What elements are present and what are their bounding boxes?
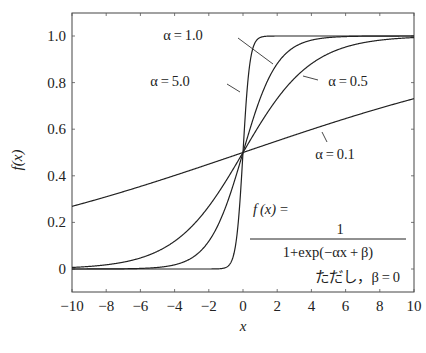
x-axis-label: x (239, 318, 247, 334)
formula-denominator: 1+exp(−αx + β) (283, 244, 374, 261)
x-tick-label: −2 (201, 298, 217, 314)
x-tick-label: −8 (98, 298, 114, 314)
x-tick-label: 0 (239, 298, 247, 314)
formula-lhs: f (x) = (253, 201, 289, 218)
formula-note: ただし，β = 0 (315, 269, 400, 285)
y-tick-label: 0.4 (47, 168, 66, 184)
x-tick-label: −4 (167, 298, 183, 314)
y-axis-label: f(x) (9, 150, 26, 171)
sigmoid-chart: 00.20.40.60.81.0 −10−8−6−4−20246810 f(x)… (0, 0, 426, 353)
x-tick-label: 2 (273, 298, 281, 314)
x-tick-label: −10 (60, 298, 83, 314)
curves (72, 36, 414, 269)
leader-alpha-05 (303, 76, 318, 80)
y-tick-label: 0.2 (47, 214, 66, 230)
curve-alpha-5 (72, 36, 414, 269)
formula-numerator: 1 (336, 221, 343, 237)
label-alpha-01: α = 0.1 (315, 146, 355, 162)
y-tick-label: 0.6 (47, 121, 66, 137)
y-tick-label: 0.8 (47, 75, 66, 91)
x-tick-label: −6 (132, 298, 148, 314)
y-tick-label: 0 (59, 261, 67, 277)
x-tick-labels: −10−8−6−4−20246810 (60, 298, 421, 314)
y-tick-label: 1.0 (47, 28, 66, 44)
label-alpha-05: α = 0.5 (328, 73, 368, 89)
leader-alpha-01 (322, 132, 327, 142)
x-tick-label: 4 (308, 298, 316, 314)
label-alpha-1: α = 1.0 (163, 27, 203, 43)
leader-alpha-5 (227, 84, 240, 92)
x-tick-label: 8 (376, 298, 384, 314)
y-tick-labels: 00.20.40.60.81.0 (47, 28, 66, 277)
x-tick-label: 6 (342, 298, 350, 314)
x-tick-label: 10 (407, 298, 422, 314)
label-alpha-5: α = 5.0 (150, 73, 190, 89)
